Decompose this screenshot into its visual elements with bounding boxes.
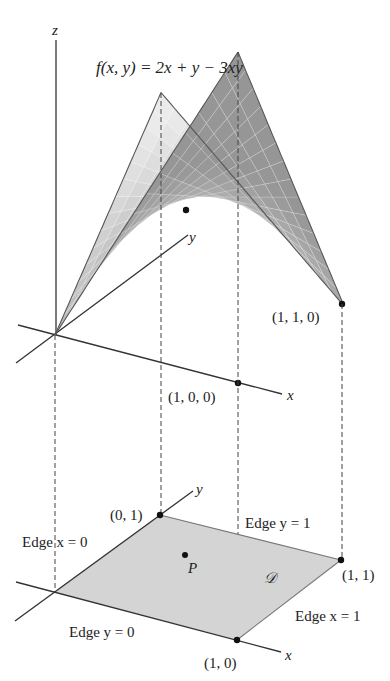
edge-x1-label: Edge x = 1 xyxy=(295,608,361,624)
point-1-0-0-label: (1, 0, 0) xyxy=(168,389,216,406)
interior-point-label: P xyxy=(187,560,197,576)
bottom-domain-panel: x y (0, 1) (1, 1) (1, 0) P 𝒟 Edge x = 0 … xyxy=(15,481,375,672)
bottom-y-axis-label: y xyxy=(194,481,203,497)
corner-1-0 xyxy=(234,637,240,643)
bottom-x-axis-label: x xyxy=(284,647,292,663)
corner-0-1-label: (0, 1) xyxy=(110,507,143,524)
surface-point xyxy=(183,207,189,213)
edge-y0-label: Edge y = 0 xyxy=(69,624,135,640)
edge-y1-label: Edge y = 1 xyxy=(245,515,311,531)
surface-diagram: z x y f(x, y) = 2x + y − 3xy (1, 0, 0) (… xyxy=(0,0,390,681)
z-axis-label: z xyxy=(51,22,58,38)
x-axis xyxy=(18,325,282,394)
corner-1-0-label: (1, 0) xyxy=(204,655,237,672)
function-label: f(x, y) = 2x + y − 3xy xyxy=(96,58,243,77)
corner-1-1-label: (1, 1) xyxy=(342,567,375,584)
x-axis-label: x xyxy=(286,387,294,403)
top-3d-panel: z x y f(x, y) = 2x + y − 3xy (1, 0, 0) (… xyxy=(16,22,345,406)
point-1-1-0-label: (1, 1, 0) xyxy=(272,309,320,326)
surface-f xyxy=(55,52,344,335)
corner-1-1 xyxy=(338,557,344,563)
corner-0-1 xyxy=(157,512,163,518)
interior-point-P xyxy=(182,552,188,558)
edge-x0-label: Edge x = 0 xyxy=(22,534,88,550)
y-axis-label: y xyxy=(187,229,196,245)
